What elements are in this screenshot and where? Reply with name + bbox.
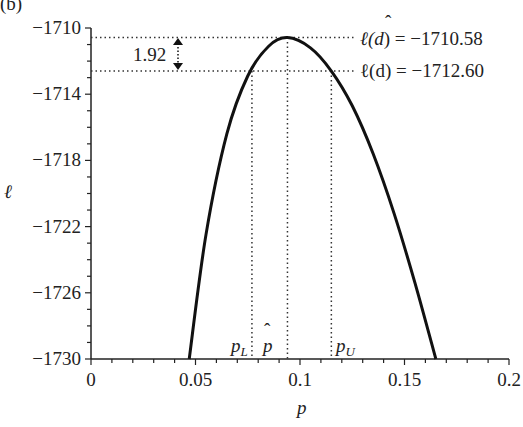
x-tick-label: 0.05 (179, 369, 212, 390)
likelihood-curve (189, 38, 436, 359)
likelihood-chart: (b) −1710−1714−1718−1722−1726−173000.050… (0, 0, 523, 427)
cut-line-label: ℓ(d) = −1712.60 (360, 60, 484, 82)
y-tick-label: −1730 (32, 348, 81, 369)
y-tick-label: −1714 (32, 83, 81, 104)
hat-accent: ˆ (385, 11, 392, 32)
difference-label: 1.92 (133, 44, 166, 65)
x-tick-label: 0.15 (388, 369, 421, 390)
x-tick-label: 0 (86, 369, 96, 390)
max-line-label: ℓ(d) = −1710.58 (360, 28, 483, 50)
pU-label: pU (334, 335, 357, 359)
guide-lines (91, 38, 355, 359)
y-tick-label: −1718 (32, 149, 81, 170)
y-axis-label: ℓ (4, 181, 12, 202)
x-tick-label: 0.1 (288, 369, 312, 390)
y-tick-label: −1722 (32, 216, 81, 237)
x-axis-label: p (295, 397, 307, 418)
y-tick-label: −1726 (32, 282, 81, 303)
x-tick-label: 0.2 (497, 369, 521, 390)
y-tick-label: −1710 (32, 17, 81, 38)
panel-label: (b) (0, 0, 22, 15)
pL-label: pL (229, 335, 248, 359)
phat-accent: ˆ (264, 319, 271, 340)
double-arrow-icon (173, 38, 183, 70)
